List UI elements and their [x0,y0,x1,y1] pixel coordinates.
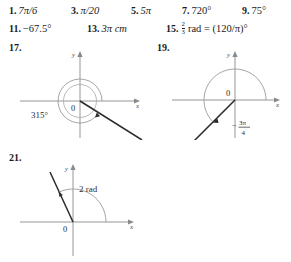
answer-item-9: 9.75° [242,3,266,19]
fraction-numerator: 2 [182,21,185,28]
y-axis-label: y [226,51,231,59]
answer-row-1: 1.7π/6 3.π/20 5.5π 7.720° 9.75° [0,3,291,19]
answer-number: 13. [87,23,100,34]
answer-value: rad = (120/π)° [188,23,248,34]
y-axis-label: y [71,51,76,59]
answer-value: 75° [252,5,267,16]
answer-number: 9. [242,5,250,16]
answer-item-7: 7.720° [182,3,211,19]
answer-number: 5. [131,5,139,16]
answer-number: 7. [182,5,190,16]
y-axis-label: y [64,165,69,173]
figure-21: x y 0 2 rad [18,160,146,258]
figure-17: x y 0 315° [18,48,146,140]
y-axis-arrowhead [232,51,237,57]
answer-value: 7π/6 [19,5,38,16]
answer-value: π/20 [81,5,100,16]
answer-item-5: 5.5π [131,3,151,19]
figure-21-svg: x y 0 2 rad [18,160,146,258]
terminal-ray [80,101,142,140]
fraction-denominator: 3 [182,28,185,36]
answer-number: 1. [9,5,17,16]
origin-label: 0 [226,88,230,98]
y-axis-arrowhead [77,51,82,57]
answer-value: −67.5° [23,23,52,34]
answer-key-page: 1.7π/6 3.π/20 5.5π 7.720° 9.75° 11.−67.5… [0,0,291,262]
answer-number: 3. [71,5,79,16]
answer-number: 11. [9,23,21,34]
answer-value: 5π [141,5,152,16]
angle-label-sign: − [232,121,237,130]
answer-row-2: 11.−67.5° 13.3π cm 15.23rad = (120/π)° [0,21,291,37]
terminal-ray [50,172,73,222]
angle-label-denominator: 4 [242,129,246,137]
y-axis-arrowhead [70,164,75,170]
problem-label-19: 19. [157,42,170,54]
x-axis-label: x [129,223,134,231]
answer-number: 15. [166,23,179,34]
x-axis-label: x [135,102,140,110]
terminal-ray [192,100,235,140]
x-axis-label: x [275,101,280,109]
figure-19: x y 0 − 3π 4 [170,48,290,140]
answer-item-13: 13.3π cm [87,21,127,37]
answer-item-3: 3.π/20 [71,3,99,19]
answer-item-1: 1.7π/6 [9,3,37,19]
answer-item-11: 11.−67.5° [9,21,51,37]
figure-17-svg: x y 0 315° [18,48,146,140]
fraction-two-thirds: 23 [182,21,185,36]
origin-label: 0 [71,103,75,113]
answer-item-15: 15.23rad = (120/π)° [166,21,248,37]
angle-arc-arrowhead [59,191,63,197]
origin-label: 0 [63,224,67,234]
angle-label-315: 315° [31,110,49,120]
answer-value: 720° [192,5,212,16]
angle-label-2-rad: 2 rad [79,184,98,194]
angle-label-numerator: 3π [239,119,247,127]
answer-value: 3π cm [102,23,127,34]
figure-19-svg: x y 0 − 3π 4 [170,48,290,140]
